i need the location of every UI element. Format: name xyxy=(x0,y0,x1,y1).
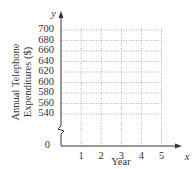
y-axis-label-line-1: Annual Telephone xyxy=(10,43,21,120)
y-axis-var: y xyxy=(50,8,56,19)
x-tick-label: 5 xyxy=(159,150,164,161)
y-axis-arrow-icon xyxy=(59,11,64,18)
y-tick-label: 540 xyxy=(38,107,54,118)
y-tick-label: 700 xyxy=(38,23,54,34)
y-tick-label: 680 xyxy=(38,34,54,45)
y-tick-label: 600 xyxy=(38,76,54,87)
y-origin-label: 0 xyxy=(45,139,50,150)
axes xyxy=(58,15,178,146)
y-axis-label: Annual Telephone Expenditures ($) xyxy=(10,43,34,120)
grid-lines xyxy=(61,28,162,146)
x-axis-arrow-icon xyxy=(175,144,182,149)
x-tick-label: 2 xyxy=(99,150,104,161)
x-tick-label: 4 xyxy=(139,150,145,161)
y-tick-label: 560 xyxy=(38,97,54,108)
y-tick-label: 640 xyxy=(38,55,54,66)
x-tick-label: 1 xyxy=(78,150,83,161)
chart: 700680660640620600580560540 12345 0 y x … xyxy=(0,0,195,169)
axis-break-icon xyxy=(58,126,64,134)
y-tick-label: 620 xyxy=(38,65,54,76)
x-axis-label: Year xyxy=(111,156,131,167)
x-axis-var: x xyxy=(184,151,190,162)
y-tick-label: 580 xyxy=(38,86,54,97)
y-tick-label: 660 xyxy=(38,44,54,55)
y-axis-label-line-2: Expenditures ($) xyxy=(22,46,34,117)
y-tick-labels: 700680660640620600580560540 xyxy=(38,23,54,118)
